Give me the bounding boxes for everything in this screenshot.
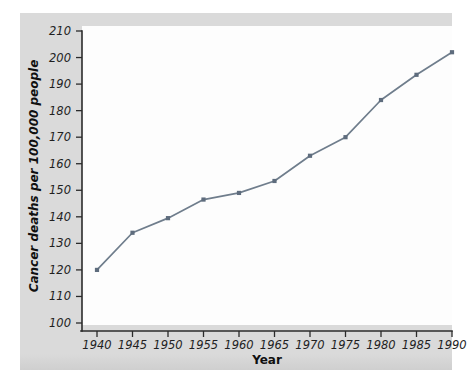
y-tick-label-100: 100 bbox=[49, 316, 71, 330]
y-tick-label-160: 160 bbox=[49, 157, 71, 171]
x-axis-title: Year bbox=[251, 353, 282, 367]
data-point-1960 bbox=[237, 191, 241, 195]
x-tick-label-1945: 1945 bbox=[118, 338, 147, 352]
x-tick-label-1965: 1965 bbox=[260, 338, 289, 352]
y-tick-label-210: 210 bbox=[49, 24, 71, 38]
data-point-1950 bbox=[166, 216, 170, 220]
y-tick-label-200: 200 bbox=[49, 51, 71, 65]
x-tick-label-1975: 1975 bbox=[331, 338, 360, 352]
x-tick-label-1950: 1950 bbox=[153, 338, 182, 352]
y-axis-ticks bbox=[76, 31, 82, 323]
x-tick-label-1955: 1955 bbox=[189, 338, 218, 352]
data-point-1965 bbox=[272, 179, 276, 183]
data-point-1975 bbox=[343, 135, 347, 139]
x-tick-label-1985: 1985 bbox=[402, 338, 431, 352]
data-point-1985 bbox=[414, 73, 418, 77]
data-point-1990 bbox=[450, 50, 454, 54]
y-tick-label-190: 190 bbox=[49, 77, 71, 91]
data-point-1940 bbox=[95, 268, 99, 272]
x-tick-label-1940: 1940 bbox=[82, 338, 111, 352]
x-tick-label-1980: 1980 bbox=[366, 338, 395, 352]
data-point-1945 bbox=[130, 231, 134, 235]
data-point-1980 bbox=[379, 98, 383, 102]
y-tick-label-130: 130 bbox=[49, 236, 71, 250]
y-tick-label-120: 120 bbox=[49, 263, 71, 277]
data-point-1955 bbox=[201, 197, 205, 201]
y-tick-label-150: 150 bbox=[49, 183, 71, 197]
y-tick-label-170: 170 bbox=[49, 130, 71, 144]
plot-area-background bbox=[82, 26, 452, 325]
y-tick-label-110: 110 bbox=[49, 289, 71, 303]
y-axis-title: Cancer deaths per 100,000 people bbox=[27, 60, 41, 293]
x-axis-tick-labels: 1940194519501955196019651970197519801985… bbox=[82, 338, 466, 352]
x-tick-label-1970: 1970 bbox=[295, 338, 324, 352]
x-tick-label-1990: 1990 bbox=[437, 338, 466, 352]
line-chart: 100110120130140150160170180190200210 194… bbox=[0, 0, 471, 389]
x-axis-ticks bbox=[97, 331, 452, 337]
data-point-1970 bbox=[308, 154, 312, 158]
x-tick-label-1960: 1960 bbox=[224, 338, 253, 352]
y-tick-label-180: 180 bbox=[49, 104, 71, 118]
y-tick-label-140: 140 bbox=[49, 210, 71, 224]
y-axis-tick-labels: 100110120130140150160170180190200210 bbox=[49, 24, 71, 330]
